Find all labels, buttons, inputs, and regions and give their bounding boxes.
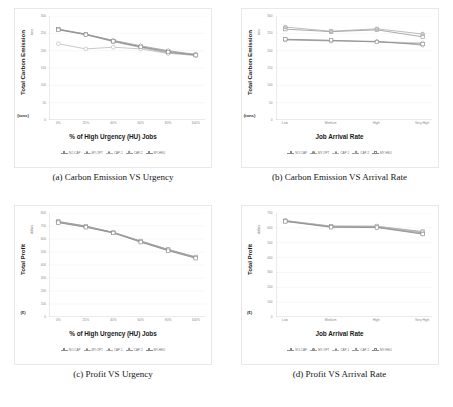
legend-marker-icon: [372, 153, 379, 154]
legend-label: MY-OPT: [92, 348, 103, 352]
x-tick-b-0: Low: [282, 121, 288, 125]
y-tick-a-6: 300: [41, 14, 46, 18]
y-tick-labels-d: 0100200300400500600700: [256, 213, 274, 317]
x-tick-d-2: High: [373, 318, 380, 322]
legend-marker-icon: [106, 153, 113, 154]
y-axis-unit-d: ($): [244, 310, 256, 315]
x-tick-b-2: High: [373, 121, 380, 125]
legend-b: NO-CAPMY-OPTCAP-1CAP-2MY-HEU: [242, 149, 438, 157]
x-axis-title-a: % of High Urgency (HU) Jobs: [15, 133, 211, 140]
legend-item-c-4[interactable]: MY-HEU: [146, 348, 166, 352]
legend-item-d-3[interactable]: CAP-2: [352, 348, 369, 352]
y-tick-d-4: 400: [267, 256, 272, 260]
legend-label: CAP-1: [114, 348, 123, 352]
y-tick-d-6: 600: [267, 226, 272, 230]
legend-item-b-4[interactable]: MY-HEU: [372, 151, 392, 155]
x-tick-c-5: 100%: [191, 318, 199, 322]
legend-label: NO-CAP: [295, 151, 307, 155]
y-tick-b-1: 50: [269, 101, 273, 105]
y-tick-b-5: 250: [267, 31, 272, 35]
legend-label: NO-CAP: [295, 348, 307, 352]
y-tick-d-5: 500: [267, 241, 272, 245]
x-tick-a-3: 60%: [137, 121, 144, 125]
x-tick-c-2: 40%: [110, 318, 117, 322]
y-axis-unit-b: (tons): [244, 113, 256, 118]
legend-item-a-1[interactable]: MY-OPT: [84, 151, 103, 155]
x-tick-c-4: 80%: [165, 318, 172, 322]
legend-label: CAP-1: [114, 151, 123, 155]
chart-panel-a: Total Carbon Emission (tons) tons 050100…: [14, 8, 212, 168]
legend-item-b-3[interactable]: CAP-2: [352, 151, 369, 155]
x-tick-d-0: Low: [282, 318, 288, 322]
y-tick-labels-b: 050100150200250300: [256, 16, 274, 120]
legend-label: MY-HEU: [380, 348, 392, 352]
legend-item-a-4[interactable]: MY-HEU: [146, 151, 166, 155]
legend-marker-icon: [352, 153, 359, 154]
y-tick-a-2: 100: [41, 83, 46, 87]
legend-marker-icon: [84, 350, 91, 351]
plot-area-d: [276, 213, 432, 317]
y-tick-c-1: 100: [41, 302, 46, 306]
legend-marker-icon: [310, 350, 317, 351]
chart-panel-d: Total Profit ($) dollars 010020030040050…: [241, 205, 439, 365]
legend-item-d-2[interactable]: CAP-1: [332, 348, 349, 352]
legend-item-a-2[interactable]: CAP-1: [106, 151, 123, 155]
x-tick-c-0: 0%: [56, 318, 61, 322]
x-tick-b-3: Very High: [415, 121, 429, 125]
legend-marker-icon: [372, 350, 379, 351]
legend-item-a-3[interactable]: CAP-2: [126, 151, 143, 155]
y-tick-a-0: 0: [44, 118, 46, 122]
caption-b: (b) Carbon Emission VS Arrival Rate: [226, 172, 453, 182]
legend-marker-icon: [352, 350, 359, 351]
legend-marker-icon: [126, 350, 133, 351]
x-tick-labels-a: 0%25%40%60%80%100%: [49, 121, 205, 130]
x-tick-c-3: 60%: [137, 318, 144, 322]
legend-marker-icon: [61, 350, 68, 351]
legend-item-d-4[interactable]: MY-HEU: [372, 348, 392, 352]
legend-label: NO-CAP: [69, 151, 81, 155]
legend-item-b-1[interactable]: MY-OPT: [310, 151, 329, 155]
legend-item-c-1[interactable]: MY-OPT: [84, 348, 103, 352]
x-tick-d-3: Very High: [415, 318, 429, 322]
legend-marker-icon: [146, 153, 153, 154]
y-tick-b-6: 300: [267, 14, 272, 18]
legend-marker-icon: [126, 153, 133, 154]
legend-marker-icon: [332, 153, 339, 154]
legend-label: CAP-1: [340, 151, 349, 155]
y-tick-a-1: 50: [42, 101, 46, 105]
caption-c: (c) Profit VS Urgency: [0, 369, 226, 379]
caption-a: (a) Carbon Emission VS Urgency: [0, 172, 226, 182]
legend-item-d-0[interactable]: NO-CAP: [287, 348, 307, 352]
plot-area-b: [276, 16, 432, 120]
chart-panel-b: Total Carbon Emission (tons) tons 050100…: [241, 8, 439, 168]
legend-item-b-2[interactable]: CAP-1: [332, 151, 349, 155]
y-tick-b-4: 200: [267, 49, 272, 53]
legend-item-d-1[interactable]: MY-OPT: [310, 348, 329, 352]
subfigure-d: Total Profit ($) dollars 010020030040050…: [226, 197, 453, 394]
x-tick-b-1: Medium: [325, 121, 337, 125]
legend-item-c-2[interactable]: CAP-1: [106, 348, 123, 352]
legend-marker-icon: [61, 153, 68, 154]
legend-label: CAP-2: [360, 151, 369, 155]
y-tick-c-5: 500: [41, 250, 46, 254]
legend-label: CAP-2: [134, 348, 143, 352]
y-tick-c-6: 600: [41, 237, 46, 241]
y-tick-c-4: 400: [41, 263, 46, 267]
x-tick-labels-d: LowMediumHighVery High: [276, 318, 432, 327]
y-tick-d-2: 200: [267, 285, 272, 289]
chart-panel-c: Total Profit ($) dollars 010020030040050…: [14, 205, 212, 365]
legend-label: NO-CAP: [69, 348, 81, 352]
legend-item-b-0[interactable]: NO-CAP: [287, 151, 307, 155]
subfigure-c: Total Profit ($) dollars 010020030040050…: [0, 197, 226, 394]
legend-label: MY-OPT: [318, 151, 329, 155]
legend-item-c-0[interactable]: NO-CAP: [61, 348, 81, 352]
y-tick-b-2: 100: [267, 83, 272, 87]
legend-item-c-3[interactable]: CAP-2: [126, 348, 143, 352]
plot-area-c: [49, 213, 205, 317]
y-axis-unit-a: (tons): [17, 113, 29, 118]
legend-marker-icon: [287, 350, 294, 351]
legend-marker-icon: [287, 153, 294, 154]
y-tick-d-0: 0: [271, 315, 273, 319]
legend-item-a-0[interactable]: NO-CAP: [61, 151, 81, 155]
legend-marker-icon: [332, 350, 339, 351]
